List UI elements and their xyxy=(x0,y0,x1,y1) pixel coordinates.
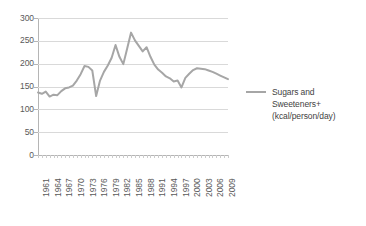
x-tick-label-1967: 1967 xyxy=(65,178,74,197)
legend-label-line-2: Sweeteners+ xyxy=(272,99,321,109)
x-tick-label-1991: 1991 xyxy=(158,178,167,197)
y-tick-label-50: 50 xyxy=(6,128,34,137)
x-tick-label-1988: 1988 xyxy=(147,178,156,197)
x-axis-labels: 1961196419671970197319761979198219851988… xyxy=(38,157,229,217)
x-tick-label-2009: 2009 xyxy=(228,178,237,197)
y-tick-label-250: 250 xyxy=(6,36,34,45)
x-tick-label-1961: 1961 xyxy=(42,178,51,197)
x-tick-label-1985: 1985 xyxy=(135,178,144,197)
legend-label-line-3: (kcal/person/day) xyxy=(272,111,336,121)
series-polyline xyxy=(38,33,228,97)
legend-swatch-icon xyxy=(246,91,266,93)
x-tick-label-2003: 2003 xyxy=(205,178,214,197)
x-tick-label-1976: 1976 xyxy=(100,178,109,197)
x-tick-label-1982: 1982 xyxy=(123,178,132,197)
y-tick-label-200: 200 xyxy=(6,59,34,68)
legend-item-label: Sugars andSweeteners+(kcal/person/day) xyxy=(272,86,336,122)
legend-label-line-1: Sugars and xyxy=(272,87,314,97)
x-tick-label-1994: 1994 xyxy=(170,178,179,197)
x-tick-label-1970: 1970 xyxy=(77,178,86,197)
y-tick-label-300: 300 xyxy=(6,14,34,23)
x-tick-label-1973: 1973 xyxy=(89,178,98,197)
series-line-sugars-and-sweeteners xyxy=(38,18,228,155)
y-tick-label-0: 0 xyxy=(6,151,34,160)
x-tick-label-1979: 1979 xyxy=(112,178,121,197)
legend-item-sugars-and-sweeteners: Sugars andSweeteners+(kcal/person/day) xyxy=(246,86,364,122)
x-tick-label-1997: 1997 xyxy=(182,178,191,197)
x-tick-label-2000: 2000 xyxy=(193,178,202,197)
chart-container: 050100150200250300 196119641967197019731… xyxy=(0,0,366,226)
x-tick-label-2006: 2006 xyxy=(216,178,225,197)
x-tick-label-1964: 1964 xyxy=(54,178,63,197)
y-tick-label-100: 100 xyxy=(6,105,34,114)
legend: Sugars andSweeteners+(kcal/person/day) xyxy=(246,86,364,122)
y-tick-label-150: 150 xyxy=(6,82,34,91)
